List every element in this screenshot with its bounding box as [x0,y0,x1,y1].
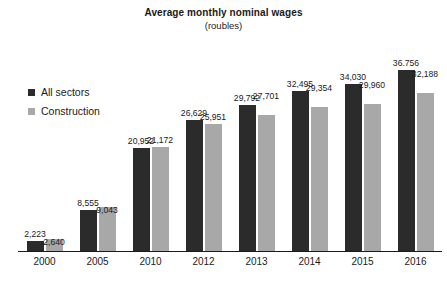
bar-all-sectors[interactable] [292,91,309,252]
bar-group: 2,2232,640 [18,30,71,252]
bar-value-label: 2,640 [43,237,65,247]
bar-all-sectors[interactable] [133,148,150,252]
bar-item[interactable]: 26,629 [186,120,203,252]
bar-item[interactable]: 20,952 [133,148,150,252]
x-axis-tick-labels: 20002005201020122013201420152016 [18,256,442,268]
title-block: Average monthly nominal wages (roubles) [0,7,447,32]
bar-construction[interactable] [152,147,169,252]
x-axis-line [18,251,442,253]
chart-title: Average monthly nominal wages [0,7,447,19]
bar-item[interactable]: 27,701 [258,115,275,252]
bar-value-label: 36.756 [393,58,419,68]
x-tick-label: 2016 [389,256,442,268]
bar-value-label: 25,951 [200,112,226,122]
bar-value-label: 29,960 [359,80,385,90]
bar-item[interactable]: 29,792 [239,105,256,252]
x-tick-label: 2015 [336,256,389,268]
chart-container: Average monthly nominal wages (roubles) … [0,0,447,283]
bar-value-label: 27,701 [253,91,279,101]
bar-item[interactable]: 8,555 [80,210,97,252]
plot-area: 2,2232,6408,5559,04320,95221,17226,62925… [18,30,442,252]
bar-all-sectors[interactable] [239,105,256,252]
bar-item[interactable]: 29,960 [364,104,381,252]
bar-group: 36.75632,188 [389,30,442,252]
bar-group: 20,95221,172 [124,30,177,252]
bar-item[interactable]: 9,043 [99,207,116,252]
x-tick-label: 2010 [124,256,177,268]
bar-group: 26,62925,951 [177,30,230,252]
bar-item[interactable]: 32,495 [292,91,309,252]
bar-value-label: 29,354 [306,83,332,93]
x-tick-label: 2005 [71,256,124,268]
bar-group: 34,03029,960 [336,30,389,252]
bar-construction[interactable] [258,115,275,252]
bar-group: 29,79227,701 [230,30,283,252]
bar-construction[interactable] [205,124,222,252]
bar-item[interactable]: 29,354 [311,107,328,252]
x-tick-label: 2014 [283,256,336,268]
x-tick-label: 2012 [177,256,230,268]
bar-item[interactable]: 36.756 [398,70,415,252]
bar-group: 8,5559,043 [71,30,124,252]
bar-item[interactable]: 32,188 [417,93,434,252]
bar-value-label: 9,043 [96,205,118,215]
bar-item[interactable]: 21,172 [152,147,169,252]
bar-value-label: 32,188 [412,69,438,79]
x-tick-label: 2000 [18,256,71,268]
bar-construction[interactable] [417,93,434,252]
bar-item[interactable]: 34,030 [345,84,362,252]
bar-all-sectors[interactable] [186,120,203,252]
bar-all-sectors[interactable] [398,70,415,252]
bar-construction[interactable] [311,107,328,252]
bar-item[interactable]: 25,951 [205,124,222,252]
bar-groups: 2,2232,6408,5559,04320,95221,17226,62925… [18,30,442,252]
bar-all-sectors[interactable] [80,210,97,252]
bar-value-label: 21,172 [147,135,173,145]
bar-group: 32,49529,354 [283,30,336,252]
bar-construction[interactable] [364,104,381,252]
x-tick-label: 2013 [230,256,283,268]
bar-all-sectors[interactable] [345,84,362,252]
